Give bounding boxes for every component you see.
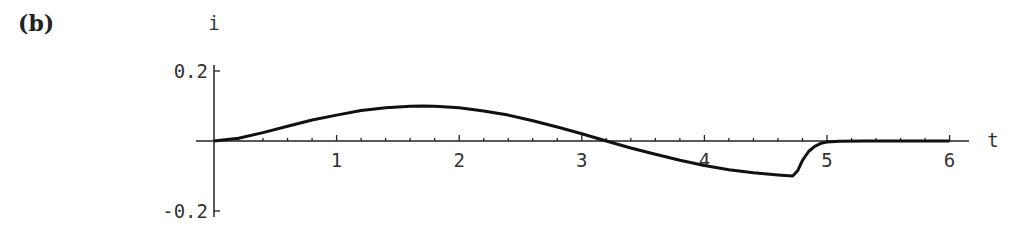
- x-tick-label: 3: [576, 149, 587, 171]
- x-axis-label: t: [987, 129, 998, 151]
- x-tick-label: 1: [331, 149, 342, 171]
- y-tick-label: -0.2: [162, 200, 208, 222]
- y-axis-label: i: [208, 12, 219, 34]
- x-tick-label: 2: [453, 149, 464, 171]
- line-chart: 1234560.2-0.2 t i: [0, 0, 1010, 236]
- y-tick-label: 0.2: [174, 60, 208, 82]
- x-tick-label: 6: [944, 149, 955, 171]
- x-tick-label: 5: [821, 149, 832, 171]
